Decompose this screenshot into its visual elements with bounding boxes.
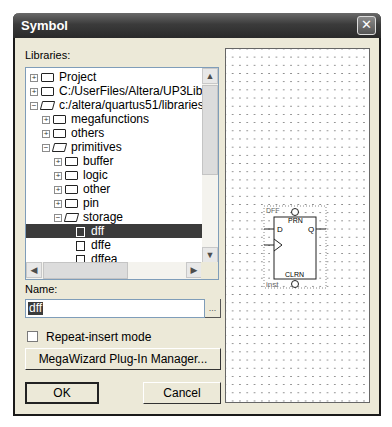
collapse-icon[interactable]: − bbox=[30, 102, 38, 110]
folder-open-icon bbox=[64, 213, 79, 222]
folder-icon bbox=[65, 157, 78, 166]
tree-item-megafunctions[interactable]: +megafunctions bbox=[42, 112, 149, 126]
libraries-tree[interactable]: +Project +C:/UserFiles/Altera/UP3Libra −… bbox=[25, 67, 219, 280]
scroll-up-icon[interactable]: ▲ bbox=[202, 68, 218, 84]
tree-item-userfiles[interactable]: +C:/UserFiles/Altera/UP3Libra bbox=[30, 84, 213, 98]
tree-item-logic[interactable]: +logic bbox=[54, 168, 108, 182]
repeat-insert-label[interactable]: Repeat-insert mode bbox=[46, 330, 151, 344]
symbol-preview: DFF PRN D Q CLRN inst bbox=[225, 48, 370, 403]
name-value: dff bbox=[28, 302, 43, 315]
cancel-button[interactable]: Cancel bbox=[143, 382, 221, 404]
ok-button[interactable]: OK bbox=[25, 382, 99, 404]
folder-icon bbox=[41, 87, 54, 96]
browse-button[interactable]: ... bbox=[205, 299, 221, 318]
scroll-down-icon[interactable]: ▼ bbox=[202, 247, 218, 263]
folder-open-icon bbox=[40, 101, 55, 110]
tree-item-primitives[interactable]: −primitives bbox=[42, 140, 122, 154]
port-d: D bbox=[277, 225, 283, 234]
folder-icon bbox=[65, 199, 78, 208]
tree-item-pin[interactable]: +pin bbox=[54, 196, 99, 210]
tree-item-project[interactable]: +Project bbox=[30, 70, 96, 84]
port-q: Q bbox=[308, 225, 314, 234]
scrollbar-corner bbox=[201, 262, 218, 279]
expand-icon[interactable]: + bbox=[54, 200, 62, 208]
horizontal-scroll-thumb[interactable] bbox=[43, 262, 128, 279]
folder-icon bbox=[53, 115, 66, 124]
name-label: Name: bbox=[25, 283, 57, 295]
repeat-insert-checkbox[interactable] bbox=[27, 331, 38, 342]
folder-open-icon bbox=[52, 143, 67, 152]
name-input[interactable]: dff bbox=[25, 299, 205, 318]
vertical-scroll-thumb[interactable] bbox=[202, 85, 218, 175]
dff-symbol-graphic bbox=[226, 49, 371, 404]
symbol-dialog: Symbol ✕ Libraries: +Project +C:/UserFil… bbox=[13, 13, 381, 416]
expand-icon[interactable]: + bbox=[42, 116, 50, 124]
vertical-scrollbar[interactable]: ▲ ▼ bbox=[202, 68, 218, 263]
symbol-icon bbox=[76, 241, 85, 251]
libraries-label: Libraries: bbox=[25, 49, 70, 61]
horizontal-scrollbar[interactable]: ◀ ▶ bbox=[26, 262, 202, 279]
folder-icon bbox=[53, 129, 66, 138]
expand-icon[interactable]: + bbox=[30, 88, 38, 96]
tree-item-dff[interactable]: dff bbox=[26, 224, 202, 238]
instance-name: inst bbox=[266, 280, 278, 289]
expand-icon[interactable]: + bbox=[30, 74, 38, 82]
tree-item-buffer[interactable]: +buffer bbox=[54, 154, 113, 168]
folder-icon bbox=[41, 73, 54, 82]
collapse-icon[interactable]: − bbox=[54, 214, 62, 222]
symbol-name: DFF bbox=[266, 207, 280, 214]
tree-item-dffe[interactable]: dffe bbox=[76, 238, 111, 252]
expand-icon[interactable]: + bbox=[42, 130, 50, 138]
collapse-icon[interactable]: − bbox=[42, 144, 50, 152]
dialog-title: Symbol bbox=[21, 18, 68, 33]
close-button[interactable]: ✕ bbox=[357, 16, 376, 35]
port-prn: PRN bbox=[288, 217, 303, 224]
expand-icon[interactable]: + bbox=[54, 158, 62, 166]
port-clrn: CLRN bbox=[285, 271, 304, 278]
folder-icon bbox=[65, 185, 78, 194]
folder-icon bbox=[65, 171, 78, 180]
tree-item-quartus-libraries[interactable]: −c:/altera/quartus51/libraries/ bbox=[30, 98, 207, 112]
scroll-left-icon[interactable]: ◀ bbox=[26, 262, 42, 278]
symbol-icon bbox=[76, 227, 85, 237]
tree-item-storage[interactable]: −storage bbox=[54, 210, 123, 224]
expand-icon[interactable]: + bbox=[54, 172, 62, 180]
tree-item-other[interactable]: +other bbox=[54, 182, 110, 196]
close-icon: ✕ bbox=[361, 17, 372, 32]
tree-item-others[interactable]: +others bbox=[42, 126, 104, 140]
scroll-right-icon[interactable]: ▶ bbox=[186, 262, 202, 278]
megawizard-button[interactable]: MegaWizard Plug-In Manager... bbox=[25, 348, 221, 370]
expand-icon[interactable]: + bbox=[54, 186, 62, 194]
title-bar[interactable]: Symbol ✕ bbox=[13, 13, 381, 38]
